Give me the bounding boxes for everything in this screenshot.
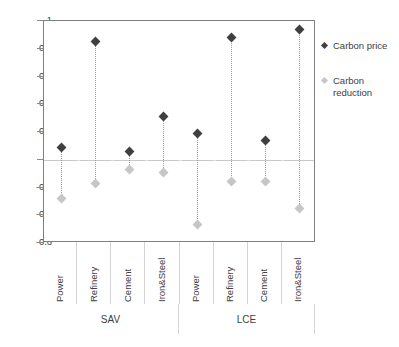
- axis-minor-tick: [179, 160, 182, 161]
- connector-line: [163, 117, 164, 173]
- category-axis-label: Cement: [122, 269, 133, 302]
- category-axis-cell: Cement: [110, 242, 144, 304]
- category-axis-label: Iron&Steel: [156, 258, 167, 302]
- category-axis-cell: Power: [43, 242, 76, 304]
- group-axis: SAVLCE: [43, 304, 315, 334]
- category-axis-label: Iron&Steel: [292, 258, 303, 302]
- axis-minor-tick: [247, 160, 250, 161]
- category-axis-label: Refinery: [224, 267, 235, 302]
- category-axis-label: Cement: [258, 269, 269, 302]
- legend-label-continuation: reduction: [333, 87, 399, 100]
- category-axis-label: Power: [190, 275, 201, 302]
- data-point-carbon-reduction: [56, 194, 66, 204]
- data-point-carbon-price: [192, 128, 202, 138]
- group-axis-label: SAV: [101, 314, 120, 325]
- category-axis-cell: Cement: [247, 242, 281, 304]
- category-axis-cell: Power: [179, 242, 213, 304]
- connector-line: [95, 42, 96, 184]
- group-axis-cell: LCE: [178, 304, 315, 334]
- connector-line: [197, 133, 198, 225]
- data-point-carbon-price: [56, 142, 66, 152]
- connector-line: [231, 38, 232, 182]
- category-axis-cell: Iron&Steel: [281, 242, 315, 304]
- plot-area: [43, 20, 315, 242]
- data-point-carbon-price: [294, 24, 304, 34]
- legend-item: Carbon price: [322, 40, 399, 53]
- data-point-carbon-reduction: [192, 220, 202, 230]
- data-point-carbon-reduction: [90, 178, 100, 188]
- chart-legend: Carbon priceCarbonreduction: [322, 40, 399, 122]
- legend-marker-diamond-icon: [321, 76, 328, 83]
- group-axis-cell: SAV: [43, 304, 178, 334]
- legend-label: Carbon price: [333, 40, 399, 53]
- data-point-carbon-reduction: [226, 177, 236, 187]
- data-point-carbon-price: [226, 33, 236, 43]
- data-point-carbon-reduction: [158, 167, 168, 177]
- category-axis-cell: Refinery: [213, 242, 247, 304]
- group-axis-label: LCE: [237, 314, 256, 325]
- category-axis: PowerRefineryCementIron&SteelPowerRefine…: [43, 242, 315, 304]
- data-point-carbon-price: [124, 146, 134, 156]
- data-point-carbon-reduction: [294, 203, 304, 213]
- legend-item: Carbonreduction: [322, 75, 399, 100]
- axis-minor-tick: [281, 160, 284, 161]
- category-axis-cell: Refinery: [76, 242, 110, 304]
- axis-minor-tick: [145, 160, 148, 161]
- connector-line: [61, 147, 62, 198]
- data-point-carbon-reduction: [260, 177, 270, 187]
- category-axis-label: Power: [54, 275, 65, 302]
- category-axis-cell: Iron&Steel: [144, 242, 178, 304]
- data-point-carbon-price: [260, 135, 270, 145]
- axis-minor-tick: [111, 160, 114, 161]
- axis-minor-tick: [77, 160, 80, 161]
- legend-label: Carbon: [333, 75, 399, 88]
- data-point-carbon-reduction: [124, 165, 134, 175]
- data-point-carbon-price: [90, 37, 100, 47]
- legend-marker-diamond-icon: [321, 42, 328, 49]
- chart-figure: 10.80.60.40.20-0.2-0.4-0.6 PowerRefinery…: [0, 0, 399, 347]
- data-point-carbon-price: [158, 112, 168, 122]
- category-axis-label: Refinery: [88, 267, 99, 302]
- axis-minor-tick: [213, 160, 216, 161]
- connector-line: [299, 29, 300, 208]
